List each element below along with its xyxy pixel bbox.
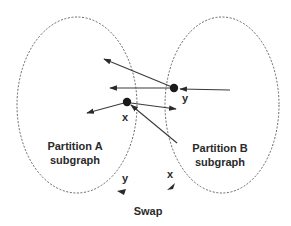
swap-label: Swap bbox=[134, 205, 163, 217]
partition-b-label-line1: Partition B bbox=[192, 142, 248, 154]
node-x-label: x bbox=[122, 111, 129, 123]
partition-a-label-line1: Partition A bbox=[47, 140, 102, 152]
node-x bbox=[123, 98, 131, 106]
edge-b-to-x bbox=[131, 105, 177, 143]
edge-b-to-y bbox=[180, 89, 230, 90]
swap-x-label: x bbox=[167, 168, 174, 180]
edge-y-to-a-upper bbox=[104, 59, 172, 87]
node-y-label: y bbox=[182, 92, 189, 104]
edge-x-to-a-lower bbox=[87, 103, 124, 113]
swap-right-arrowhead-icon bbox=[167, 183, 175, 190]
swap-left-arrowhead-icon bbox=[117, 189, 126, 195]
swap-y-label: y bbox=[122, 172, 129, 184]
edge-x-to-b bbox=[131, 103, 176, 109]
node-y bbox=[170, 84, 178, 92]
partition-a-label-line2: subgraph bbox=[50, 154, 100, 166]
partition-b-label-line2: subgraph bbox=[195, 156, 245, 168]
partition-a-boundary bbox=[17, 17, 137, 193]
partition-swap-diagram: y x Partition A subgraph Partition B sub… bbox=[0, 0, 291, 226]
